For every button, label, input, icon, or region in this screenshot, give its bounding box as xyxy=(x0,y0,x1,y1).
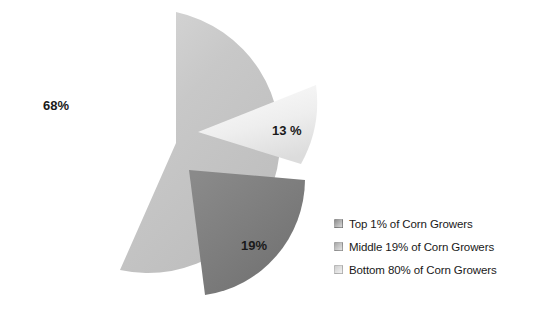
pie-slice-middle-19[interactable] xyxy=(189,170,305,295)
legend-swatch-icon xyxy=(334,265,343,274)
pie-label-bottom-80: 68% xyxy=(43,98,69,113)
legend-item-label: Middle 19% of Corn Growers xyxy=(349,241,494,253)
legend-swatch-icon xyxy=(334,242,343,251)
pie-chart-canvas: 68% 13 % 19% xyxy=(0,0,340,311)
legend-item-label: Top 1% of Corn Growers xyxy=(349,218,473,230)
legend-item-middle-19[interactable]: Middle 19% of Corn Growers xyxy=(334,235,549,258)
legend-item-bottom-80[interactable]: Bottom 80% of Corn Growers xyxy=(334,258,549,281)
legend-swatch-icon xyxy=(334,219,343,228)
pie-chart: 68% 13 % 19% Top 1% of Corn Growers Midd… xyxy=(0,0,553,311)
legend-item-top-1[interactable]: Top 1% of Corn Growers xyxy=(334,212,549,235)
pie-label-middle-19: 19% xyxy=(241,238,267,253)
legend-item-label: Bottom 80% of Corn Growers xyxy=(349,264,497,276)
pie-label-top-1: 13 % xyxy=(272,123,302,138)
chart-legend: Top 1% of Corn Growers Middle 19% of Cor… xyxy=(334,212,549,281)
